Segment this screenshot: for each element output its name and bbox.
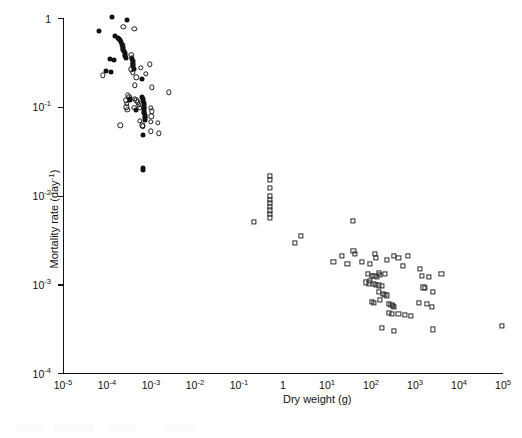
data-point-filled-circles-41 bbox=[142, 117, 147, 122]
data-point-open-squares-28 bbox=[417, 266, 422, 271]
data-point-open-squares-13 bbox=[350, 218, 355, 223]
data-point-open-squares-44 bbox=[427, 275, 432, 280]
data-point-open-squares-55 bbox=[371, 300, 376, 305]
data-point-open-squares-22 bbox=[367, 261, 372, 266]
data-point-open-circles-13 bbox=[133, 75, 138, 80]
data-point-open-squares-62 bbox=[429, 304, 434, 309]
data-point-filled-circles-13 bbox=[117, 37, 122, 42]
y-tick-label-4: 1 bbox=[45, 13, 51, 24]
data-point-filled-circles-17 bbox=[112, 58, 117, 63]
data-point-open-squares-20 bbox=[345, 261, 350, 266]
y-tick-4: 1 bbox=[58, 18, 64, 19]
data-point-open-squares-70 bbox=[431, 327, 436, 332]
x-tick-label-0: 10-5 bbox=[54, 380, 72, 391]
data-point-filled-circles-15 bbox=[123, 55, 128, 60]
data-point-open-circles-39 bbox=[156, 131, 161, 136]
data-point-open-squares-2 bbox=[267, 185, 272, 190]
data-point-open-squares-67 bbox=[408, 313, 413, 318]
x-tick-label-8: 103 bbox=[407, 380, 423, 391]
data-point-open-squares-15 bbox=[353, 251, 358, 256]
figure-scatter-mortality-vs-dryweight: 10-410-310-210-11 10-510-410-310-210-111… bbox=[0, 0, 522, 438]
data-point-open-squares-64 bbox=[389, 312, 394, 317]
data-point-open-squares-69 bbox=[391, 328, 396, 333]
data-point-open-squares-68 bbox=[380, 326, 385, 331]
y-axis-title: Mortality rate (day-1) bbox=[48, 170, 60, 269]
data-point-filled-circles-22 bbox=[109, 70, 114, 75]
x-tick-label-1: 10-4 bbox=[98, 380, 116, 391]
data-point-open-circles-36 bbox=[148, 119, 153, 124]
data-point-open-squares-1 bbox=[267, 177, 272, 182]
data-point-open-squares-23 bbox=[384, 257, 389, 262]
data-point-open-squares-10 bbox=[251, 220, 256, 225]
data-point-open-squares-52 bbox=[384, 293, 389, 298]
data-point-filled-circles-25 bbox=[140, 77, 145, 82]
data-point-open-squares-12 bbox=[293, 241, 298, 246]
y-tick-0: 10-4 bbox=[58, 373, 64, 374]
y-tick-1: 10-3 bbox=[58, 284, 64, 285]
page-caption-smudge bbox=[16, 424, 246, 431]
data-point-open-squares-18 bbox=[373, 255, 378, 260]
data-point-open-circles-15 bbox=[132, 82, 137, 87]
x-tick-label-2: 10-3 bbox=[142, 380, 160, 391]
data-point-open-squares-59 bbox=[391, 304, 396, 309]
data-point-open-squares-71 bbox=[499, 323, 504, 328]
x-tick-label-10: 105 bbox=[495, 380, 511, 391]
data-point-open-squares-35 bbox=[383, 272, 388, 277]
y-tick-label-0: 10-4 bbox=[33, 368, 51, 379]
x-tick-label-4: 10-1 bbox=[230, 380, 248, 391]
x-tick-label-9: 104 bbox=[451, 380, 467, 391]
data-point-filled-circles-45 bbox=[141, 167, 146, 172]
data-point-open-squares-21 bbox=[359, 259, 364, 264]
data-point-open-circles-38 bbox=[148, 129, 153, 134]
data-point-open-squares-42 bbox=[379, 284, 384, 289]
data-point-filled-circles-0 bbox=[110, 15, 115, 20]
data-point-open-squares-25 bbox=[396, 255, 401, 260]
data-point-open-circles-10 bbox=[138, 65, 143, 70]
data-point-open-squares-47 bbox=[423, 286, 428, 291]
y-tick-3: 10-1 bbox=[58, 107, 64, 108]
data-point-open-circles-12 bbox=[100, 73, 105, 78]
data-point-open-squares-11 bbox=[299, 233, 304, 238]
data-point-open-squares-45 bbox=[439, 272, 444, 277]
data-point-filled-circles-2 bbox=[96, 28, 101, 33]
data-point-open-circles-16 bbox=[149, 85, 154, 90]
data-point-open-squares-60 bbox=[417, 300, 422, 305]
x-tick-label-7: 102 bbox=[363, 380, 379, 391]
y-tick-label-1: 10-3 bbox=[33, 280, 51, 291]
x-axis-title: Dry weight (g) bbox=[283, 393, 351, 405]
data-point-open-squares-26 bbox=[406, 253, 411, 258]
data-point-open-squares-16 bbox=[339, 253, 344, 258]
data-point-filled-circles-1 bbox=[124, 17, 129, 22]
data-point-open-circles-23 bbox=[125, 107, 130, 112]
plot-area: 10-410-310-210-11 10-510-410-310-210-111… bbox=[63, 18, 503, 373]
data-point-open-circles-35 bbox=[140, 124, 145, 129]
data-point-open-circles-1 bbox=[132, 26, 137, 31]
data-point-open-circles-32 bbox=[118, 122, 123, 127]
data-point-open-squares-19 bbox=[331, 259, 336, 264]
data-point-filled-circles-43 bbox=[141, 133, 146, 138]
data-point-open-squares-65 bbox=[396, 312, 401, 317]
data-point-open-squares-53 bbox=[377, 298, 382, 303]
data-point-open-circles-11 bbox=[147, 62, 152, 67]
data-point-open-squares-43 bbox=[420, 273, 425, 278]
y-tick-label-3: 10-1 bbox=[33, 102, 51, 113]
y-axis-title-text: Mortality rate (day-1) bbox=[48, 170, 60, 269]
x-tick-label-5: 1 bbox=[280, 380, 286, 391]
data-point-open-squares-48 bbox=[431, 289, 436, 294]
data-point-open-circles-17 bbox=[166, 90, 171, 95]
data-point-open-circles-0 bbox=[121, 24, 126, 29]
data-point-open-circles-14 bbox=[143, 71, 148, 76]
x-tick-label-6: 101 bbox=[319, 380, 335, 391]
data-point-open-squares-9 bbox=[267, 215, 272, 220]
data-point-open-squares-27 bbox=[400, 264, 405, 269]
x-tick-label-3: 10-2 bbox=[186, 380, 204, 391]
data-point-open-circles-37 bbox=[155, 120, 160, 125]
